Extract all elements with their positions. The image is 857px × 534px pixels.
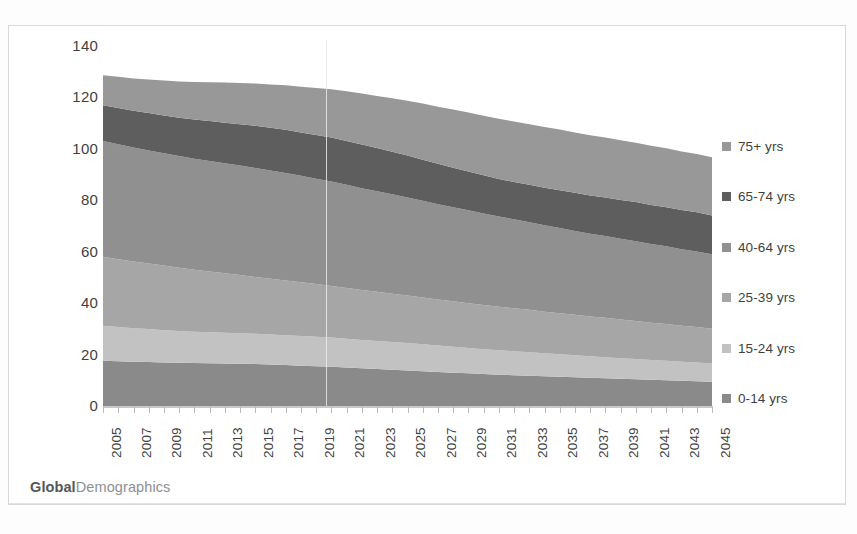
x-tick-mark bbox=[316, 406, 317, 413]
y-tick-label: 0 bbox=[40, 399, 98, 413]
x-tick-label: 2015 bbox=[261, 427, 276, 458]
brand-light-text: Demographics bbox=[76, 479, 171, 495]
y-tick-label: 120 bbox=[40, 90, 98, 104]
x-tick-label: 2045 bbox=[718, 427, 733, 458]
legend-item[interactable]: 25-39 yrs bbox=[722, 290, 795, 306]
x-tick-mark bbox=[286, 406, 287, 413]
x-tick-label: 2043 bbox=[687, 427, 702, 458]
x-tick-mark bbox=[545, 406, 546, 413]
x-tick-mark bbox=[453, 406, 454, 413]
x-tick-label: 2035 bbox=[565, 427, 580, 458]
x-tick-label: 2027 bbox=[444, 427, 459, 458]
x-tick-label: 2021 bbox=[352, 427, 367, 458]
legend-item[interactable]: 75+ yrs bbox=[722, 138, 783, 154]
x-tick-mark bbox=[149, 406, 150, 413]
legend-swatch-icon bbox=[722, 142, 731, 151]
x-tick-mark bbox=[210, 406, 211, 413]
x-tick-mark bbox=[134, 406, 135, 413]
y-tick-label: 140 bbox=[40, 39, 98, 53]
legend-swatch-icon bbox=[722, 394, 731, 403]
x-tick-mark bbox=[651, 406, 652, 413]
x-axis-labels: 2005200720092011201320152017201920212023… bbox=[103, 414, 712, 472]
y-axis-ticks: 140120100806040200 bbox=[40, 40, 98, 412]
x-tick-label: 2009 bbox=[169, 427, 184, 458]
x-tick-label: 2041 bbox=[657, 427, 672, 458]
x-tick-mark bbox=[605, 406, 606, 413]
legend-item[interactable]: 15-24 yrs bbox=[722, 340, 795, 356]
x-tick-mark bbox=[529, 406, 530, 413]
x-tick-mark bbox=[712, 406, 713, 413]
chart-page: Persons millions 140120100806040200 2005… bbox=[0, 0, 857, 534]
legend-swatch-icon bbox=[722, 192, 731, 201]
x-tick-label: 2039 bbox=[626, 427, 641, 458]
x-tick-label: 2017 bbox=[291, 427, 306, 458]
x-tick-mark bbox=[514, 406, 515, 413]
x-tick-mark bbox=[225, 406, 226, 413]
footer-divider bbox=[9, 503, 845, 504]
x-tick-mark bbox=[621, 406, 622, 413]
x-tick-label: 2007 bbox=[139, 427, 154, 458]
legend-item[interactable]: 0-14 yrs bbox=[722, 391, 788, 407]
legend-item[interactable]: 65-74 yrs bbox=[722, 189, 795, 205]
x-tick-label: 2037 bbox=[596, 427, 611, 458]
x-tick-mark bbox=[408, 406, 409, 413]
legend-swatch-icon bbox=[722, 344, 731, 353]
x-tick-mark bbox=[331, 406, 332, 413]
x-tick-label: 2019 bbox=[322, 427, 337, 458]
legend-label: 25-39 yrs bbox=[738, 290, 795, 305]
x-tick-mark bbox=[377, 406, 378, 413]
y-tick-label: 40 bbox=[40, 296, 98, 310]
x-tick-mark bbox=[499, 406, 500, 413]
x-tick-mark bbox=[194, 406, 195, 413]
x-tick-label: 2025 bbox=[413, 427, 428, 458]
chart-legend: 75+ yrs65-74 yrs40-64 yrs25-39 yrs15-24 … bbox=[722, 138, 842, 408]
brand-bold-text: Global bbox=[30, 479, 76, 495]
x-tick-mark bbox=[438, 406, 439, 413]
legend-label: 0-14 yrs bbox=[738, 391, 788, 406]
x-tick-mark bbox=[682, 406, 683, 413]
legend-swatch-icon bbox=[722, 293, 731, 302]
x-tick-mark bbox=[240, 406, 241, 413]
x-tick-mark bbox=[666, 406, 667, 413]
x-tick-mark bbox=[636, 406, 637, 413]
x-tick-mark bbox=[392, 406, 393, 413]
x-tick-mark bbox=[301, 406, 302, 413]
x-tick-mark bbox=[484, 406, 485, 413]
x-tick-mark bbox=[255, 406, 256, 413]
legend-label: 15-24 yrs bbox=[738, 341, 795, 356]
x-tick-label: 2011 bbox=[200, 428, 215, 458]
legend-swatch-icon bbox=[722, 243, 731, 252]
x-tick-mark bbox=[697, 406, 698, 413]
x-tick-label: 2033 bbox=[535, 427, 550, 458]
x-tick-mark bbox=[560, 406, 561, 413]
plot-area bbox=[103, 46, 712, 406]
x-tick-mark bbox=[590, 406, 591, 413]
x-tick-label: 2005 bbox=[109, 427, 124, 458]
legend-label: 65-74 yrs bbox=[738, 189, 795, 204]
y-tick-label: 20 bbox=[40, 348, 98, 362]
x-tick-mark bbox=[347, 406, 348, 413]
x-tick-mark bbox=[468, 406, 469, 413]
x-tick-mark bbox=[179, 406, 180, 413]
x-tick-label: 2013 bbox=[230, 427, 245, 458]
plot-vertical-marker bbox=[326, 40, 327, 406]
brand-watermark: GlobalDemographics bbox=[30, 479, 170, 495]
y-tick-label: 60 bbox=[40, 245, 98, 259]
legend-item[interactable]: 40-64 yrs bbox=[722, 239, 795, 255]
y-tick-label: 100 bbox=[40, 142, 98, 156]
x-tick-label: 2031 bbox=[504, 427, 519, 458]
x-tick-label: 2029 bbox=[474, 427, 489, 458]
legend-label: 75+ yrs bbox=[738, 139, 783, 154]
stacked-area-svg bbox=[103, 46, 712, 406]
x-tick-mark bbox=[575, 406, 576, 413]
legend-label: 40-64 yrs bbox=[738, 240, 795, 255]
x-tick-mark bbox=[423, 406, 424, 413]
x-tick-mark bbox=[118, 406, 119, 413]
x-tick-mark bbox=[271, 406, 272, 413]
y-tick-label: 80 bbox=[40, 193, 98, 207]
x-tick-mark bbox=[103, 406, 104, 413]
x-tick-mark bbox=[164, 406, 165, 413]
x-tick-mark bbox=[362, 406, 363, 413]
stacked-areas bbox=[103, 46, 712, 406]
x-tick-label: 2023 bbox=[383, 427, 398, 458]
